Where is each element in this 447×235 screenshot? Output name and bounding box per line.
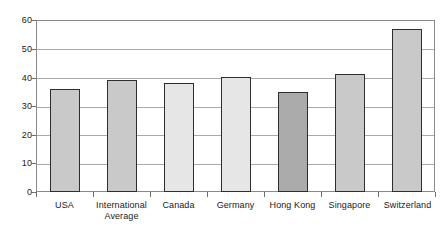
x-label-switzerland-line-1: Switzerland [375, 200, 440, 211]
bar-slot-hong-kong [264, 20, 321, 192]
y-tick-label-50: 50 [6, 45, 32, 54]
bar-slot-canada [150, 20, 207, 192]
y-tick-label-60: 60 [6, 16, 32, 25]
x-tick-mark-5 [321, 192, 322, 197]
x-label-international-average-line-2: Average [89, 211, 154, 222]
y-tick-label-30: 30 [6, 102, 32, 111]
bar-germany[interactable] [221, 77, 251, 192]
x-label-usa: USA [36, 200, 93, 211]
y-tick-label-20: 20 [6, 131, 32, 140]
y-tick-label-10: 10 [6, 159, 32, 168]
bar-slot-singapore [321, 20, 378, 192]
x-label-international-average: International Average [89, 200, 154, 222]
bar-slot-international-average [93, 20, 150, 192]
x-label-switzerland: Switzerland [375, 200, 440, 211]
bar-slot-germany [207, 20, 264, 192]
x-label-canada-line-1: Canada [150, 200, 207, 211]
x-tick-mark-4 [264, 192, 265, 197]
x-label-singapore: Singapore [319, 200, 380, 211]
bar-singapore[interactable] [335, 74, 365, 192]
x-tick-mark-2 [150, 192, 151, 197]
x-label-germany: Germany [207, 200, 264, 211]
x-label-hong-kong: Hong Kong [262, 200, 323, 211]
bar-usa[interactable] [50, 89, 80, 192]
bar-chart: 60 50 40 30 20 10 0 [0, 0, 447, 235]
bar-slot-usa [36, 20, 93, 192]
bar-international-average[interactable] [107, 80, 137, 192]
bar-switzerland[interactable] [392, 29, 422, 192]
bars-layer [36, 20, 435, 192]
bar-slot-switzerland [378, 20, 435, 192]
x-tick-mark-7 [435, 192, 436, 197]
x-label-usa-line-1: USA [36, 200, 93, 211]
x-label-international-average-line-1: International [89, 200, 154, 211]
bar-canada[interactable] [164, 83, 194, 192]
x-label-canada: Canada [150, 200, 207, 211]
x-tick-mark-0 [36, 192, 37, 197]
x-label-germany-line-1: Germany [207, 200, 264, 211]
x-tick-mark-6 [378, 192, 379, 197]
x-tick-mark-3 [207, 192, 208, 197]
bar-hong-kong[interactable] [278, 92, 308, 192]
y-tick-label-40: 40 [6, 74, 32, 83]
x-label-hong-kong-line-1: Hong Kong [262, 200, 323, 211]
y-tick-label-0: 0 [6, 188, 32, 197]
x-tick-mark-1 [93, 192, 94, 197]
x-label-singapore-line-1: Singapore [319, 200, 380, 211]
